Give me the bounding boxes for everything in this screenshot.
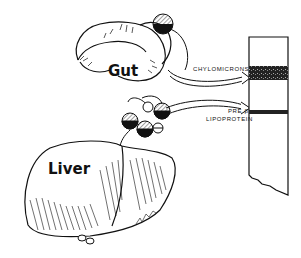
- pre-beta-label: PRE β: [228, 108, 248, 114]
- pre-beta-band: [249, 110, 288, 114]
- gut-label: Gut: [108, 62, 138, 80]
- electrophoresis-strip: [249, 37, 288, 195]
- liver-label: Liver: [48, 160, 90, 178]
- liver-drawing: [25, 130, 175, 244]
- chylomicron-band: [249, 66, 288, 80]
- lipoprotein-illustration: [0, 0, 301, 258]
- chylomicrons-label: CHYLOMICRONS: [193, 66, 249, 72]
- lipoprotein-label: LIPOPROTEIN: [206, 116, 253, 122]
